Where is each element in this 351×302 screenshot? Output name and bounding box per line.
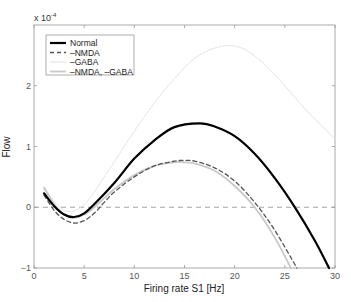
y-tick-label: 0 [26, 202, 31, 212]
y-exponent-label: x 10-4 [34, 12, 57, 23]
y-tick-label: 1 [26, 142, 31, 152]
legend-label: –NMDA, –GABA [70, 67, 133, 77]
y-tick-label: 2 [26, 81, 31, 91]
x-tick-label: 10 [129, 271, 139, 281]
y-axis-label: Flow [1, 136, 12, 158]
legend: Normal–NMDA–GABA–NMDA, –GABA [46, 35, 134, 77]
x-tick-label: 0 [31, 271, 36, 281]
legend-label: –GABA [70, 57, 99, 67]
x-tick-label: 5 [82, 271, 87, 281]
y-exponent-power: -4 [51, 12, 57, 18]
x-tick-label: 20 [230, 271, 240, 281]
x-axis-label: Firing rate S1 [Hz] [144, 283, 225, 294]
x-tick-label: 15 [179, 271, 189, 281]
x-tick-label: 30 [330, 271, 340, 281]
y-tick-label: −1 [21, 263, 31, 273]
legend-label: Normal [70, 38, 98, 48]
flow-chart: 051015202530−1012 x 10-4 Firing rate S1 … [0, 0, 351, 302]
legend-label: –NMDA [70, 48, 100, 58]
x-tick-label: 25 [280, 271, 290, 281]
